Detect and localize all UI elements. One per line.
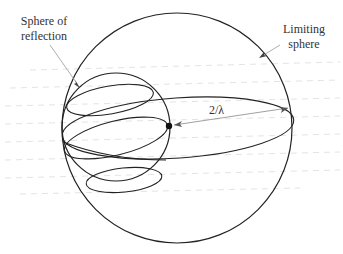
background-texture bbox=[5, 62, 340, 194]
label-line: sphere bbox=[268, 37, 340, 52]
radius-label: 2/λ bbox=[209, 103, 224, 118]
radius-arrow bbox=[174, 107, 288, 127]
origin-dot bbox=[166, 123, 172, 129]
limiting-sphere-label: Limiting sphere bbox=[268, 22, 340, 52]
rotated-sphere-ellipses bbox=[60, 79, 296, 196]
label-line: Sphere of bbox=[4, 14, 84, 29]
sphere-of-reflection-label: Sphere of reflection bbox=[4, 14, 84, 44]
limiting-sphere bbox=[62, 13, 292, 243]
reflection-sphere bbox=[62, 73, 170, 181]
ellipse-large bbox=[60, 90, 296, 166]
label-line: reflection bbox=[4, 29, 84, 44]
label-line: Limiting bbox=[268, 22, 340, 37]
